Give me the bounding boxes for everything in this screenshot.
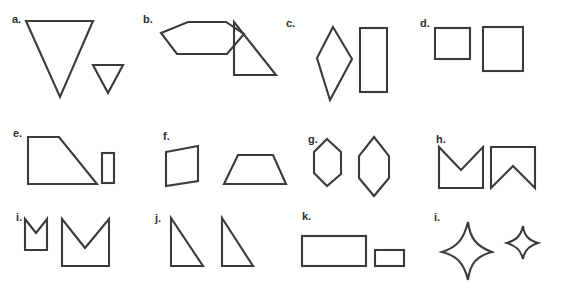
panel-g-shapes (314, 137, 389, 196)
panel-label-l: i. (434, 212, 440, 223)
panel-i-shapes (25, 219, 109, 266)
panel-b-shapes (161, 22, 276, 75)
panel-label-d: d. (420, 18, 430, 29)
large-four-point-star (442, 222, 492, 280)
large-crown (62, 219, 109, 266)
right-triangle (234, 22, 276, 75)
horizontal-hexagon (161, 22, 244, 54)
small-inverted-triangle (93, 65, 123, 93)
shapes-layer (0, 0, 563, 296)
panel-label-i: i. (16, 212, 22, 223)
panel-j-shapes (171, 218, 253, 266)
panel-label-c: c. (286, 18, 295, 29)
small-horizontal-rectangle (375, 250, 404, 266)
large-horizontal-rectangle (302, 236, 366, 266)
panel-d-shapes (435, 27, 523, 71)
panel-label-h: h. (436, 134, 446, 145)
panel-label-j: j. (155, 213, 161, 224)
panel-label-a: a. (12, 14, 21, 25)
panel-k-shapes (302, 236, 404, 266)
crown-notched-top-square (439, 147, 483, 188)
isosceles-trapezoid (224, 155, 286, 184)
panel-h-shapes (439, 147, 535, 188)
right-triangle-left (171, 218, 203, 266)
panel-label-b: b. (143, 14, 153, 25)
small-crown (25, 219, 47, 250)
left-trapezoid (166, 146, 198, 186)
panel-a-shapes (26, 21, 123, 97)
large-inverted-triangle (26, 21, 93, 97)
right-trapezoid (28, 137, 97, 184)
worksheet-canvas: a.b.c.d.e.f.g.h.i.j.k.i. (0, 0, 563, 296)
small-square (435, 28, 470, 59)
tall-rhombus (317, 27, 352, 100)
large-vertical-hexagon (359, 137, 389, 196)
panel-e-shapes (28, 137, 114, 184)
panel-label-g: g. (308, 134, 318, 145)
panel-label-e: e. (13, 128, 22, 139)
panel-label-f: f. (163, 131, 170, 142)
banner-notched-bottom-square (491, 147, 535, 188)
small-four-point-star (507, 226, 538, 259)
panel-c-shapes (317, 27, 387, 100)
panel-l-shapes (442, 222, 538, 280)
panel-label-k: k. (302, 211, 311, 222)
right-triangle-right (222, 218, 253, 266)
small-vertical-hexagon (314, 139, 341, 186)
panel-f-shapes (166, 146, 286, 186)
vertical-rectangle (360, 28, 387, 92)
small-vertical-rectangle (102, 153, 114, 183)
large-square (483, 27, 523, 71)
